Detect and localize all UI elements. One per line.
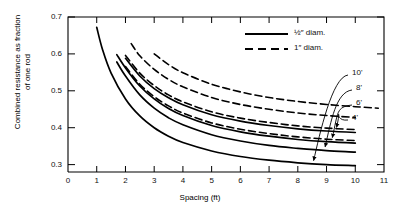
- annotation-label: 6': [356, 98, 362, 107]
- x-axis-tick-label: 4: [175, 176, 191, 185]
- figure: Combined resistance as fraction of one r…: [0, 0, 407, 210]
- y-axis-tick-label: 0.6: [36, 49, 62, 58]
- annotation-leader-10ft: [314, 75, 348, 161]
- x-axis-tick-label: 11: [376, 176, 392, 185]
- x-axis-tick-label: 1: [89, 176, 105, 185]
- y-axis-tick-label: 0.3: [36, 160, 62, 169]
- y-axis-label-line1: Combined resistance as fraction: [13, 15, 22, 129]
- plot-frame: [68, 17, 384, 172]
- chart-curve-one-4ft: [154, 54, 378, 108]
- x-axis-tick-label: 2: [117, 176, 133, 185]
- legend-label: 1″ diam.: [294, 43, 323, 52]
- x-axis-tick-label: 9: [319, 176, 335, 185]
- annotation-label: 8': [356, 83, 362, 92]
- x-axis-tick-label: 10: [347, 176, 363, 185]
- chart-curve-half-4ft: [126, 58, 356, 132]
- x-axis-label: Spacing (ft): [140, 193, 260, 202]
- x-axis-tick-label: 3: [146, 176, 162, 185]
- x-axis-tick-label: 7: [261, 176, 277, 185]
- y-axis-tick-label: 0.7: [36, 12, 62, 21]
- legend-label: ½″ diam.: [294, 28, 325, 37]
- x-axis-tick-label: 8: [290, 176, 306, 185]
- x-axis-tick-label: 0: [60, 176, 76, 185]
- y-axis-tick-label: 0.4: [36, 123, 62, 132]
- x-axis-tick-label: 5: [204, 176, 220, 185]
- x-axis-tick-label: 6: [232, 176, 248, 185]
- annotation-label: 4': [352, 113, 358, 122]
- y-axis-label: Combined resistance as fraction of one r…: [13, 7, 33, 137]
- y-axis-label-line2: of one rod: [23, 54, 32, 90]
- y-axis-tick-label: 0.5: [36, 86, 62, 95]
- annotation-label: 10': [352, 68, 362, 77]
